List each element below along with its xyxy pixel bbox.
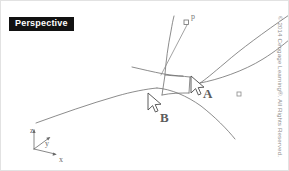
secondary-square-marker: [237, 92, 241, 96]
axis-label-z: z: [30, 127, 34, 135]
axis-label-y: y: [45, 140, 49, 148]
pick-label-a: A: [203, 87, 212, 100]
axis-x-line: [34, 149, 55, 154]
point-p-marker: [184, 20, 189, 25]
copyright-notice: © 2014 Cengage Learning®. All Rights Res…: [273, 1, 287, 171]
copyright-text: © 2014 Cengage Learning®. All Rights Res…: [277, 16, 284, 157]
viewport-label[interactable]: Perspective: [9, 17, 74, 31]
lower-left-surface-edge: [36, 88, 157, 123]
patch-right-edge: [189, 77, 190, 93]
patch-top-edge: [165, 75, 190, 77]
pick-label-b: B: [160, 111, 169, 124]
point-leader-line: [161, 25, 187, 75]
axis-label-x: x: [59, 156, 63, 164]
upper-left-surface-edge: [132, 67, 183, 76]
patch-left-edge: [162, 75, 165, 95]
point-p-label: p: [191, 13, 195, 21]
patch-bottom-edge: [162, 93, 189, 95]
perspective-viewport: Perspective A B p z y x © 2014 Cengage L…: [0, 0, 289, 171]
axis-x-arrowhead: [53, 153, 57, 156]
